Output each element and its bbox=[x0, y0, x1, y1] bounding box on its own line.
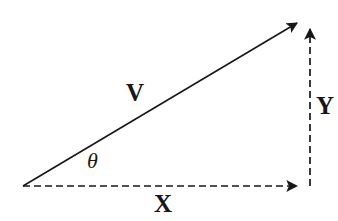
vector-v-arrow bbox=[23, 23, 297, 186]
vector-v-label: V bbox=[126, 80, 144, 105]
y-component-label: Y bbox=[316, 93, 334, 118]
vector-diagram-canvas bbox=[0, 0, 338, 221]
x-component-label: X bbox=[154, 191, 172, 216]
angle-theta-label: θ bbox=[87, 150, 98, 172]
vector-diagram: V X Y θ bbox=[0, 0, 338, 221]
